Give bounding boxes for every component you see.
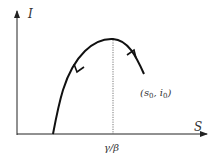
start-point-label: (s0, i0) <box>140 87 172 100</box>
peak-label: γ/β <box>104 142 119 153</box>
x-axis-label: S <box>194 120 202 134</box>
y-axis-label: I <box>27 7 33 21</box>
phase-diagram: I S γ/β (s0, i0) <box>0 0 214 162</box>
direction-arrow-left <box>74 64 84 72</box>
